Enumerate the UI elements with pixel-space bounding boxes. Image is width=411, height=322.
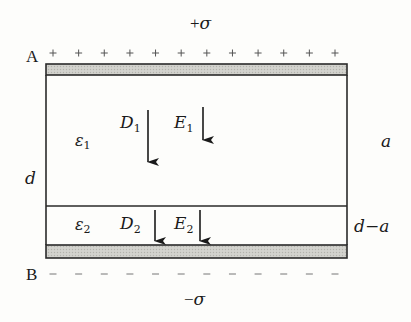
plus-sign	[126, 50, 133, 57]
bottom-plate-b	[46, 245, 347, 258]
d1-symbol: D	[119, 112, 134, 132]
e2-sub: 2	[186, 223, 193, 236]
e1-label: E1	[173, 112, 193, 135]
bottom-charge-label: −σ	[184, 289, 206, 309]
top-charge-label: +σ	[190, 13, 212, 33]
e2-symbol: E	[173, 213, 187, 233]
epsilon-2-symbol: ε	[75, 215, 84, 234]
plus-sign	[50, 50, 57, 57]
thickness-a-label: a	[381, 131, 391, 151]
plus-sign	[178, 50, 185, 57]
epsilon-1-label: ε1	[75, 131, 91, 152]
thickness-d-minus-a-label: d−a	[354, 216, 389, 236]
plus-sign	[306, 50, 313, 57]
e1-sub: 1	[186, 122, 193, 135]
e2-label: E2	[173, 213, 193, 236]
top-plate-a	[46, 64, 347, 75]
plus-sign	[75, 50, 82, 57]
plus-sign	[332, 50, 339, 57]
plus-sign	[255, 50, 262, 57]
plus-sign	[203, 50, 210, 57]
epsilon-2-label: ε2	[75, 215, 91, 236]
plus-sign	[229, 50, 236, 57]
epsilon-1-sub: 1	[84, 139, 91, 152]
plate-a-label: A	[26, 47, 39, 66]
gap-label-d: d	[25, 168, 36, 188]
bottom-sigma: σ	[194, 289, 206, 309]
plus-sign	[280, 50, 287, 57]
d2-label: D2	[119, 213, 141, 236]
plus-sign	[101, 50, 108, 57]
top-sigma: σ	[200, 13, 212, 33]
d2-sub: 2	[134, 223, 141, 236]
e1-symbol: E	[173, 112, 187, 132]
d2-symbol: D	[119, 213, 134, 233]
positive-charge-row	[50, 50, 339, 57]
d1-sub: 1	[134, 122, 141, 135]
d1-label: D1	[119, 112, 141, 135]
plus-sign	[152, 50, 159, 57]
plate-b-label: B	[26, 265, 37, 284]
epsilon-2-sub: 2	[84, 223, 91, 236]
top-charge-sign: +	[190, 14, 200, 33]
capacitor-diagram: +σ A B −σ d ε1 D1 E1 a ε2 D2 E2 d−	[0, 0, 411, 322]
bottom-charge-sign: −	[184, 290, 194, 309]
epsilon-1-symbol: ε	[75, 131, 84, 150]
